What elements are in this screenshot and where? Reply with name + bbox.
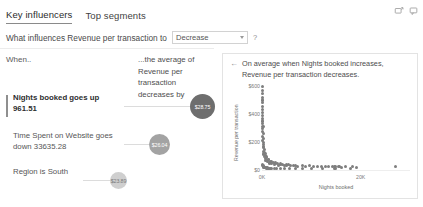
scatter-point bbox=[274, 161, 277, 164]
influencer-label: Nights booked goes up 961.51 bbox=[13, 93, 123, 114]
scatter-point bbox=[327, 165, 330, 168]
tab-key-influencers[interactable]: Key influencers bbox=[6, 9, 72, 24]
selection-indicator-bar bbox=[6, 95, 8, 117]
y-axis-ticks: $0$200$400$600 bbox=[238, 86, 260, 170]
x-axis-line bbox=[262, 170, 410, 171]
influencer-row-time-spent-on-website[interactable]: Time Spent on Website goes down 33635.28… bbox=[0, 131, 216, 165]
scatter-point bbox=[285, 163, 288, 166]
connector-line bbox=[124, 144, 149, 145]
y-axis-tick-label: $200 bbox=[248, 139, 260, 145]
focus-mode-icon[interactable] bbox=[394, 6, 404, 16]
direction-dropdown-value: Decrease bbox=[176, 33, 209, 42]
detail-card-header: ← On average when Nights booked increase… bbox=[230, 59, 409, 80]
comment-icon[interactable] bbox=[409, 6, 419, 16]
x-axis-tick-label: 0K bbox=[259, 174, 265, 180]
chevron-down-icon bbox=[240, 36, 244, 39]
scatter-point bbox=[261, 85, 264, 88]
scatter-point bbox=[394, 165, 397, 168]
scatter-point bbox=[279, 162, 282, 165]
scatter-point bbox=[261, 101, 264, 104]
influencer-value-bubble[interactable]: $26.04 bbox=[149, 134, 170, 155]
influencer-value-bubble[interactable]: $23.89 bbox=[110, 172, 127, 189]
help-icon[interactable]: ? bbox=[253, 33, 257, 42]
direction-dropdown[interactable]: Decrease bbox=[172, 31, 248, 44]
connector-line bbox=[83, 180, 110, 181]
back-arrow-icon[interactable]: ← bbox=[230, 59, 238, 69]
y-axis-tick-label: $600 bbox=[248, 83, 260, 89]
influencer-value-bubble[interactable]: $28.75 bbox=[190, 94, 215, 119]
detail-card-title: On average when Nights booked increases,… bbox=[242, 59, 409, 80]
scatter-point bbox=[316, 165, 319, 168]
x-axis-ticks: 0K20K bbox=[262, 174, 410, 182]
influencer-label: Region is South bbox=[13, 167, 123, 178]
influencers-panel: When.. ...the average of Revenue per tra… bbox=[0, 49, 216, 207]
detail-card: ← On average when Nights booked increase… bbox=[222, 53, 418, 199]
y-axis-tick-label: $0 bbox=[254, 167, 260, 173]
scatter-point bbox=[344, 165, 347, 168]
when-column-label: When.. bbox=[6, 55, 31, 64]
tab-top-segments[interactable]: Top segments bbox=[85, 10, 145, 24]
influencer-row-region-south[interactable]: Region is South $23.89 bbox=[0, 167, 216, 201]
visual-header-icons bbox=[394, 6, 419, 16]
question-prefix-label: What influences Revenue per transaction … bbox=[6, 33, 167, 43]
x-axis-title: Nights booked bbox=[262, 184, 410, 190]
x-axis-tick-label: 20K bbox=[356, 174, 365, 180]
scatter-point bbox=[340, 166, 343, 169]
plot-area[interactable] bbox=[262, 86, 410, 170]
question-row: What influences Revenue per transaction … bbox=[6, 31, 423, 44]
scatter-point bbox=[304, 165, 307, 168]
connector-line bbox=[124, 106, 190, 107]
y-axis-tick-label: $400 bbox=[248, 111, 260, 117]
scatter-point bbox=[261, 92, 264, 95]
visual-tabs: Key influencers Top segments bbox=[6, 9, 146, 24]
scatter-plot: Revenue per transaction $0$200$400$600 0… bbox=[230, 86, 412, 196]
influencer-row-nights-booked[interactable]: Nights booked goes up 961.51 $28.75 bbox=[0, 93, 216, 127]
influencer-label: Time Spent on Website goes down 33635.28 bbox=[13, 131, 123, 152]
scatter-point bbox=[355, 166, 358, 169]
